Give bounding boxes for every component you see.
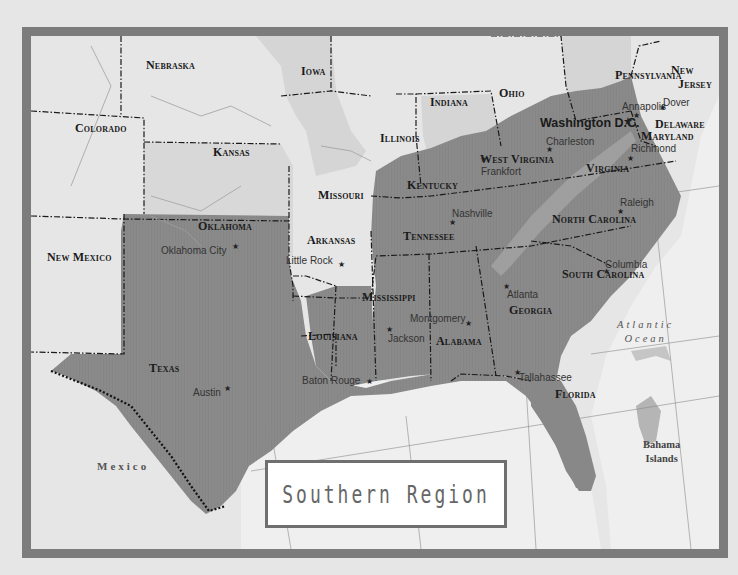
map-title: Southern Region: [282, 480, 490, 508]
state-label-illinois: Illinois: [380, 132, 420, 144]
capital-label-richmond: Richmond: [631, 144, 676, 154]
capital-star-icon: ★: [224, 385, 231, 393]
capital-star-icon: ★: [503, 283, 510, 291]
capital-star-icon: ★: [514, 369, 521, 377]
country-label-mexico: Mexico: [97, 460, 149, 472]
state-label-new-mexico: New Mexico: [47, 251, 112, 263]
state-label-jersey: Jersey: [678, 78, 712, 90]
capital-label-oklahoma-city: Oklahoma City: [161, 246, 227, 256]
state-label-virginia: Virginia: [586, 162, 629, 174]
capital-label-nashville: Nashville: [452, 209, 493, 219]
capital-label-jackson: Jackson: [388, 334, 425, 344]
capital-label-little-rock: Little Rock: [286, 256, 333, 266]
capital-star-icon: ★: [465, 320, 472, 328]
state-label-west-virginia: West Virginia: [480, 153, 554, 165]
capital-star-icon: ★: [546, 146, 553, 154]
state-label-missouri: Missouri: [318, 189, 364, 201]
islands-label: Bahama Islands: [643, 438, 680, 465]
state-label-arkansas: Arkansas: [307, 234, 356, 246]
capital-label-dover: Dover: [663, 98, 690, 108]
state-label-texas: Texas: [149, 362, 179, 374]
state-label-louisiana: Louisiana: [308, 330, 358, 342]
capital-star-icon: ★: [603, 268, 610, 276]
state-label-iowa: Iowa: [301, 65, 326, 77]
capital-star-icon: ★: [338, 261, 345, 269]
capital-star-icon: ★: [232, 243, 239, 251]
capital-label-atlanta: Atlanta: [507, 290, 538, 300]
capital-label-baton-rouge: Baton Rouge: [302, 376, 360, 386]
state-label-nebraska: Nebraska: [146, 59, 195, 71]
capital-star-icon: ★: [659, 104, 666, 112]
capital-star-icon: ★: [627, 155, 634, 163]
capital-star-icon: ★: [449, 219, 456, 227]
state-label-mississippi: Mississippi: [362, 291, 416, 303]
ocean-label-line1: Atlantic: [617, 318, 674, 332]
state-label-colorado: Colorado: [75, 122, 127, 134]
islands-label-line2: Islands: [643, 452, 680, 466]
state-label-oklahoma: Oklahoma: [198, 220, 252, 232]
state-label-tennessee: Tennessee: [403, 230, 455, 242]
national-capital-star-icon: ★: [623, 116, 633, 127]
state-label-kentucky: Kentucky: [407, 179, 458, 191]
capital-star-icon: ★: [386, 326, 393, 334]
map-title-box: Southern Region: [265, 460, 507, 528]
capital-star-icon: ★: [480, 156, 487, 164]
state-label-new: New: [671, 64, 694, 76]
map-canvas: NebraskaIowaColoradoKansasMissouriIllino…: [31, 36, 719, 549]
state-label-alabama: Alabama: [436, 335, 482, 347]
capital-label-frankfort: Frankfort: [481, 167, 521, 177]
state-label-maryland: Maryland: [641, 130, 694, 142]
capital-star-icon: ★: [366, 378, 373, 386]
state-label-kansas: Kansas: [213, 146, 250, 158]
capital-label-austin: Austin: [193, 388, 221, 398]
state-label-florida: Florida: [555, 388, 596, 400]
capital-label-montgomery: Montgomery: [410, 314, 466, 324]
ocean-label-line2: Ocean: [617, 332, 674, 346]
capital-label-tallahassee: Tallahassee: [519, 373, 572, 383]
state-label-georgia: Georgia: [509, 304, 552, 316]
capital-star-icon: ★: [617, 208, 624, 216]
capital-label-raleigh: Raleigh: [620, 198, 654, 208]
ocean-label: Atlantic Ocean: [617, 318, 674, 346]
capital-label-charleston: Charleston: [546, 137, 594, 147]
state-label-ohio: Ohio: [499, 87, 525, 99]
capital-label-columbia: Columbia: [605, 260, 647, 270]
state-label-indiana: Indiana: [430, 96, 468, 108]
islands-label-line1: Bahama: [643, 438, 680, 452]
